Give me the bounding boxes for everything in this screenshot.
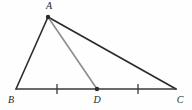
vertex-label-c: C xyxy=(177,94,184,105)
vertex-dot-a xyxy=(46,15,50,19)
vertex-label-b: B xyxy=(8,94,14,105)
geometry-figure: A B D C xyxy=(0,0,192,110)
vertex-label-a: A xyxy=(45,0,53,11)
vertex-label-d: D xyxy=(92,94,101,105)
triangle-diagram-svg: A B D C xyxy=(0,0,192,110)
vertex-dot-d xyxy=(95,87,99,91)
